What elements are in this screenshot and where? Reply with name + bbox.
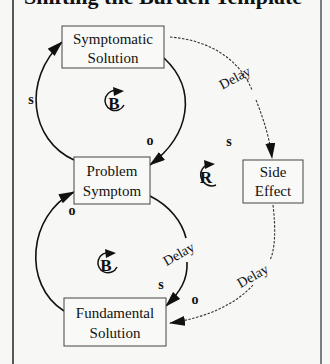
- link-symptomatic-to-problem: [150, 58, 185, 165]
- delay-label-symptomatic-to-side-effect: Delay: [217, 64, 254, 93]
- polarity-problem-to-symptomatic: s: [28, 92, 34, 107]
- loop-marker-reinforcing: R: [200, 160, 216, 187]
- loop-marker-bottom-balancing: B: [98, 249, 117, 275]
- node-fundamental-solution-line2: Solution: [90, 325, 141, 341]
- causal-loop-diagram: Shifting the Burden Template Symptomatic…: [0, 0, 330, 364]
- node-problem-symptom: Problem Symptom: [74, 157, 150, 204]
- diagram-canvas: Shifting the Burden Template Symptomatic…: [0, 0, 330, 364]
- node-side-effect-line2: Effect: [255, 183, 292, 199]
- node-symptomatic-solution-line1: Symptomatic: [73, 31, 153, 47]
- polarity-symptomatic-to-problem: o: [147, 133, 154, 148]
- node-side-effect: Side Effect: [243, 160, 303, 203]
- loop-marker-top-balancing: B: [105, 87, 124, 113]
- node-problem-symptom-line1: Problem: [87, 163, 138, 179]
- node-fundamental-solution-line1: Fundamental: [76, 305, 154, 321]
- node-problem-symptom-line2: Symptom: [83, 183, 142, 199]
- diagram-title: Shifting the Burden Template: [24, 0, 302, 9]
- polarity-symptomatic-to-side-effect: s: [226, 134, 232, 149]
- node-symptomatic-solution: Symptomatic Solution: [62, 26, 164, 68]
- loop-label-bottom-balancing: B: [100, 256, 111, 275]
- node-fundamental-solution: Fundamental Solution: [64, 298, 166, 346]
- node-symptomatic-solution-line2: Solution: [88, 50, 139, 66]
- node-side-effect-line1: Side: [260, 164, 287, 180]
- polarity-side-effect-to-fundamental: o: [192, 292, 199, 307]
- loop-label-reinforcing: R: [200, 168, 213, 187]
- delay-label-problem-to-fundamental: Delay: [161, 239, 197, 269]
- polarity-problem-to-fundamental: s: [158, 277, 164, 292]
- polarity-fundamental-to-problem: o: [69, 203, 76, 218]
- loop-label-top-balancing: B: [108, 94, 119, 113]
- delay-label-side-effect-to-fundamental: Delay: [235, 261, 271, 291]
